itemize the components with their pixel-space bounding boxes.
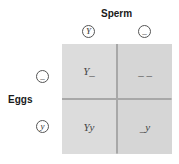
cell-r1-c2: _ _ bbox=[118, 44, 172, 98]
cell-r2-c2: _y bbox=[118, 100, 172, 154]
cell-r1-c1: Y_ bbox=[62, 44, 116, 98]
cell-r2-c1: Yy bbox=[62, 100, 116, 154]
eggs-label: Eggs bbox=[8, 94, 32, 105]
sperm-allele-2: _ bbox=[138, 25, 151, 38]
sperm-allele-1: Y bbox=[82, 25, 95, 38]
punnett-grid: Y_ _ _ Yy _y bbox=[62, 44, 172, 154]
sperm-label: Sperm bbox=[101, 8, 132, 19]
egg-allele-1: _ bbox=[36, 70, 49, 83]
egg-allele-2: y bbox=[36, 120, 49, 133]
